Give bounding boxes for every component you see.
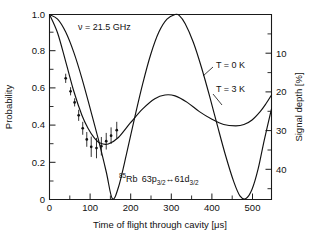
data-point-0: [64, 77, 67, 80]
bottom-axis-ticks: [50, 194, 272, 200]
transition-subscript-2: 3/2: [190, 179, 199, 186]
data-point-7: [95, 147, 98, 150]
right-axis-label: Signal depth [%]: [293, 72, 304, 141]
data-point-10: [110, 134, 113, 137]
transition-state-1: 63p: [142, 174, 157, 184]
label-t0k-group: T = 0 K: [203, 60, 245, 76]
bottom-tick-label-100: 100: [82, 202, 98, 213]
right-tick-label-30: 30: [276, 125, 287, 136]
left-tick-label-2: 0.4: [32, 119, 45, 130]
bottom-tick-label-400: 400: [204, 202, 220, 213]
data-point-11: [115, 129, 118, 132]
left-tick-label-5: 1.0: [32, 9, 45, 20]
data-point-2: [73, 101, 76, 104]
left-tick-label-0: 0: [40, 194, 45, 205]
data-point-1: [69, 90, 72, 93]
right-axis-tick-labels: 10 20 30 40: [276, 48, 287, 175]
left-tick-label-1: 0.2: [32, 157, 45, 168]
frequency-annotation: ν = 21.5 GHz: [78, 22, 131, 32]
left-tick-label-4: 0.8: [32, 45, 45, 56]
transition-element: Rb: [126, 174, 138, 184]
transition-state-2: 61d: [175, 174, 190, 184]
data-point-4: [81, 127, 84, 130]
transition-arrow: ↔: [166, 174, 175, 184]
right-tick-label-40: 40: [276, 164, 287, 175]
left-axis-tick-labels: 0 0.2 0.4 0.6 0.8 1.0: [32, 9, 45, 205]
bottom-axis-tick-labels: 0 100 200 300 400 500: [47, 202, 261, 213]
data-point-8: [100, 145, 103, 148]
figure-panel: 0 0.2 0.4 0.6 0.8 1.0 Probability 10 20 …: [0, 0, 310, 245]
bottom-tick-label-500: 500: [245, 202, 261, 213]
curve-label-t0k: T = 0 K: [216, 60, 245, 70]
transition-annotation: 85Rb63p3/2↔61d3/2: [119, 172, 199, 186]
right-axis-ticks: [266, 15, 272, 189]
left-axis-label: Probability: [3, 85, 14, 130]
right-tick-label-10: 10: [276, 48, 287, 59]
bottom-tick-label-200: 200: [123, 202, 139, 213]
data-curves: [50, 14, 272, 199]
bottom-tick-label-300: 300: [163, 202, 179, 213]
data-point-6: [90, 145, 93, 148]
right-tick-label-20: 20: [276, 86, 287, 97]
left-tick-label-3: 0.6: [32, 82, 45, 93]
leader-line-t0k: [203, 67, 213, 76]
curve-t0k: [50, 14, 272, 199]
data-point-5: [85, 138, 88, 141]
leader-line-t3k: [213, 94, 222, 105]
data-point-9: [105, 140, 108, 143]
left-axis-ticks: [50, 15, 56, 200]
svg-text:85Rb63p3/2↔61d3/2: 85Rb63p3/2↔61d3/2: [119, 172, 199, 186]
bottom-axis-label: Time of flight through cavity [μs]: [93, 219, 227, 230]
axis-frame: [50, 14, 273, 200]
curve-label-t3k: T = 3 K: [216, 84, 245, 94]
bottom-tick-label-0: 0: [47, 202, 52, 213]
label-t3k-group: T = 3 K: [213, 84, 245, 105]
plot-svg: 0 0.2 0.4 0.6 0.8 1.0 Probability 10 20 …: [0, 0, 310, 245]
data-point-3: [77, 114, 80, 117]
